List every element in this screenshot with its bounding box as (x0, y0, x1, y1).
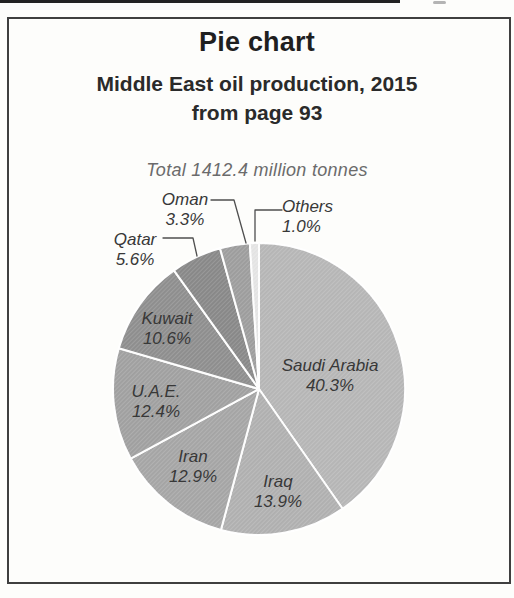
leader-line-oman (211, 200, 246, 243)
slice-label-pct: 1.0% (282, 217, 333, 237)
slice-label-pct: 12.9% (169, 467, 217, 487)
leader-line-others (255, 210, 282, 241)
slice-label-pct: 3.3% (162, 210, 208, 230)
slice-label-name: Iraq (254, 472, 302, 492)
slice-label-oman: Oman 3.3% (162, 190, 208, 230)
slice-label-pct: 13.9% (254, 492, 302, 512)
leader-line-qatar (163, 238, 197, 256)
slice-label-name: Qatar (114, 230, 157, 250)
slice-label-saudi-arabia: Saudi Arabia 40.3% (282, 356, 379, 396)
slice-label-others: Others 1.0% (282, 197, 333, 237)
slice-label-qatar: Qatar 5.6% (114, 230, 157, 270)
slice-label-uae: U.A.E. 12.4% (131, 382, 180, 422)
slice-label-iran: Iran 12.9% (169, 447, 217, 487)
scanned-page: Pie chart Middle East oil production, 20… (0, 0, 514, 598)
slice-label-pct: 5.6% (114, 250, 157, 270)
slice-label-name: Iran (169, 447, 217, 467)
slice-label-name: Oman (162, 190, 208, 210)
slice-label-pct: 12.4% (131, 402, 180, 422)
slice-label-kuwait: Kuwait 10.6% (141, 309, 192, 349)
slice-label-pct: 40.3% (282, 376, 379, 396)
slice-label-name: Kuwait (141, 309, 192, 329)
slice-label-name: U.A.E. (131, 382, 180, 402)
slice-label-pct: 10.6% (141, 329, 192, 349)
slice-label-iraq: Iraq 13.9% (254, 472, 302, 512)
slice-label-name: Others (282, 197, 333, 217)
slice-label-name: Saudi Arabia (282, 356, 379, 376)
